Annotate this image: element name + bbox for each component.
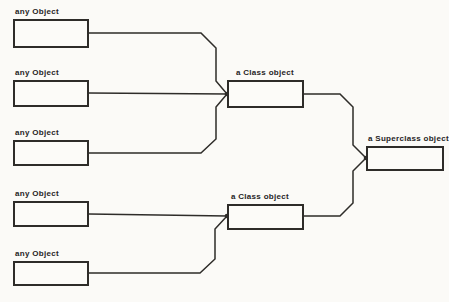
any-object-box-2: any Object <box>13 80 89 107</box>
any-object-label-3: any Object <box>15 128 59 138</box>
connector-any4-to-class2 <box>89 214 227 216</box>
connector-any5-to-class2 <box>89 216 227 273</box>
any-object-label-2: any Object <box>15 68 59 78</box>
any-object-box-1: any Object <box>13 19 89 48</box>
any-object-label-4: any Object <box>15 189 59 199</box>
any-object-box-4: any Object <box>13 201 89 227</box>
any-object-label-5: any Object <box>15 249 59 259</box>
any-object-box-5: any Object <box>13 261 89 286</box>
connector-any2-to-class1 <box>89 93 227 94</box>
class-object-box-2: a Class object <box>227 204 304 230</box>
superclass-object-label: a Superclass object <box>368 134 449 144</box>
class-object-label-1: a Class object <box>236 68 294 78</box>
object-class-superclass-diagram: any Object any Object any Object any Obj… <box>0 0 449 302</box>
connector-class2-to-superclass <box>304 158 366 216</box>
any-object-label-1: any Object <box>15 7 59 17</box>
connector-any3-to-class1 <box>89 94 227 153</box>
class-object-box-1: a Class object <box>227 80 304 108</box>
connector-any1-to-class1 <box>89 33 227 94</box>
class-object-label-2: a Class object <box>231 192 289 202</box>
superclass-object-box: a Superclass object <box>366 146 444 171</box>
any-object-box-3: any Object <box>13 140 89 166</box>
connector-class1-to-superclass <box>304 94 366 158</box>
